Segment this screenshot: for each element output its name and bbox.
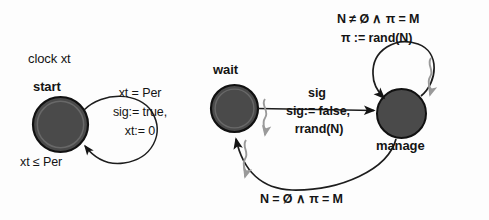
- action-label-start-loop-2: xt:= 0: [94, 124, 186, 138]
- state-node-wait[interactable]: [211, 85, 258, 132]
- state-node-manage[interactable]: [377, 89, 426, 138]
- action-label-manage-loop: π := rand(N): [341, 31, 412, 45]
- clock-declaration: clock xt: [28, 52, 71, 67]
- squiggle-marker-manage-loop: [429, 58, 432, 95]
- invariant-label-start: xt ≤ Per: [20, 155, 62, 169]
- guard-label-manage-wait: N = Ø ∧ π = M: [260, 192, 343, 206]
- state-node-start[interactable]: [33, 97, 88, 152]
- state-label-wait: wait: [213, 63, 238, 78]
- squiggle-marker-wait-out: [263, 99, 266, 135]
- action-label-wait-manage-1: sig:= false,: [268, 104, 368, 118]
- action-label-wait-manage-2: rrand(N): [276, 122, 362, 136]
- transition-manage-to-wait[interactable]: [236, 139, 396, 190]
- automata-diagram: clock xt start xt ≤ Per xt = Per sig:= t…: [0, 0, 489, 220]
- squiggle-marker-wait-in: [244, 140, 247, 177]
- action-label-start-loop-1: sig:= true,: [88, 105, 192, 119]
- diagram-canvas: [0, 0, 489, 220]
- guard-label-manage-loop: N ≠ Ø ∧ π = M: [337, 12, 419, 26]
- guard-label-wait-manage: sig: [282, 86, 352, 100]
- guard-label-start-loop: xt = Per: [94, 86, 186, 100]
- state-label-start: start: [33, 80, 61, 95]
- state-label-manage: manage: [376, 139, 425, 154]
